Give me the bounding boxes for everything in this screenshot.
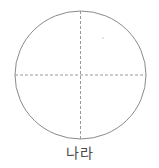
figure-caption: 나라 — [0, 145, 159, 162]
diagram-canvas — [0, 0, 159, 168]
speck-artifact-icon — [102, 37, 104, 39]
figure-container: 나라 — [0, 0, 159, 168]
